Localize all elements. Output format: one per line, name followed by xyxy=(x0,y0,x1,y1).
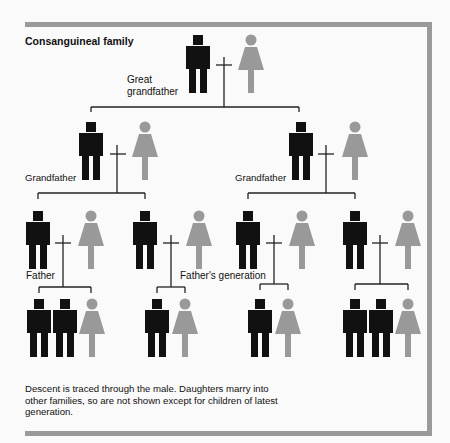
grandmother-left-figure xyxy=(132,122,158,181)
kinship-diagram xyxy=(0,0,450,443)
child-daughter-figure xyxy=(275,299,301,358)
child-daughter-figure xyxy=(395,299,421,358)
label-father: Father xyxy=(26,270,55,282)
great-grandfather-figure xyxy=(186,35,210,93)
father-4-figure xyxy=(343,211,367,269)
grandfather-left-figure xyxy=(79,122,103,180)
label-grandfather-left: Grandfather xyxy=(25,172,76,184)
marriage-cross-icon xyxy=(372,235,388,284)
label-great-grandfather: Great grandfather xyxy=(127,74,178,98)
grandmother-right-figure xyxy=(342,122,368,181)
grandfather-right-figure xyxy=(289,122,313,180)
mother-1-figure xyxy=(78,211,104,270)
mother-2-figure xyxy=(186,211,212,270)
child-son-figure xyxy=(248,299,272,357)
child-daughter-figure xyxy=(79,299,105,358)
marriage-cross-icon xyxy=(110,145,126,193)
marriage-cross-icon xyxy=(55,235,71,287)
child-daughter-figure xyxy=(172,299,198,358)
child-son-figure xyxy=(369,299,393,357)
father-1-figure xyxy=(26,211,50,269)
mother-4-figure xyxy=(395,211,421,270)
marriage-cross-icon xyxy=(163,235,179,287)
father-2-figure xyxy=(133,211,157,269)
father-3-figure xyxy=(236,211,260,269)
label-fathers-generation: Father's generation xyxy=(180,270,266,282)
mother-3-figure xyxy=(289,211,315,270)
label-great-line1: Great xyxy=(127,74,178,86)
child-son-figure xyxy=(53,299,77,357)
great-grandmother-figure xyxy=(238,35,264,94)
caption-text: Descent is traced through the male. Daug… xyxy=(25,383,285,418)
child-son-figure xyxy=(145,299,169,357)
label-grandfather-right: Grandfather xyxy=(235,172,286,184)
marriage-cross-icon xyxy=(266,235,282,284)
marriage-cross-icon xyxy=(318,145,334,193)
child-son-figure xyxy=(343,299,367,357)
marriage-cross-icon xyxy=(216,57,232,107)
child-son-figure xyxy=(27,299,51,357)
label-great-line2: grandfather xyxy=(127,86,178,98)
